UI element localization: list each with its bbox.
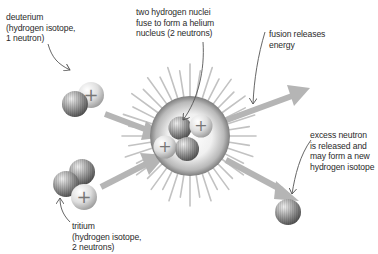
svg-text:+: + (76, 186, 91, 207)
energy-arrow (224, 85, 310, 121)
energy-label: fusion releases energy (269, 29, 325, 50)
energy-pointer (253, 32, 265, 104)
helium-neutron (175, 137, 199, 161)
helium-proton: + (190, 115, 213, 138)
excess-neutron (275, 199, 301, 225)
deuterium-label: deuterium (hydrogen isotope, 1 neutron) (6, 12, 75, 44)
tritium-particle: + (53, 159, 97, 210)
deuterium-particle: + (62, 82, 104, 117)
helium-neutron (169, 117, 192, 140)
tritium-label: tritium (hydrogen isotope, 2 neutrons) (72, 221, 141, 253)
neutron-release-arrow (226, 160, 299, 201)
excess-neutron-label: excess neutron is released and may form … (310, 130, 374, 172)
svg-text:+: + (158, 137, 171, 156)
helium-proton: + (154, 136, 177, 159)
deuterium-pointer (48, 44, 70, 70)
neutron (62, 91, 88, 117)
tritium-pointer (60, 198, 70, 222)
fusion-label: two hydrogen nuclei fuse to form a heliu… (136, 7, 214, 39)
neutron-pointer (292, 140, 311, 194)
proton: + (71, 184, 97, 210)
svg-text:+: + (194, 116, 207, 135)
